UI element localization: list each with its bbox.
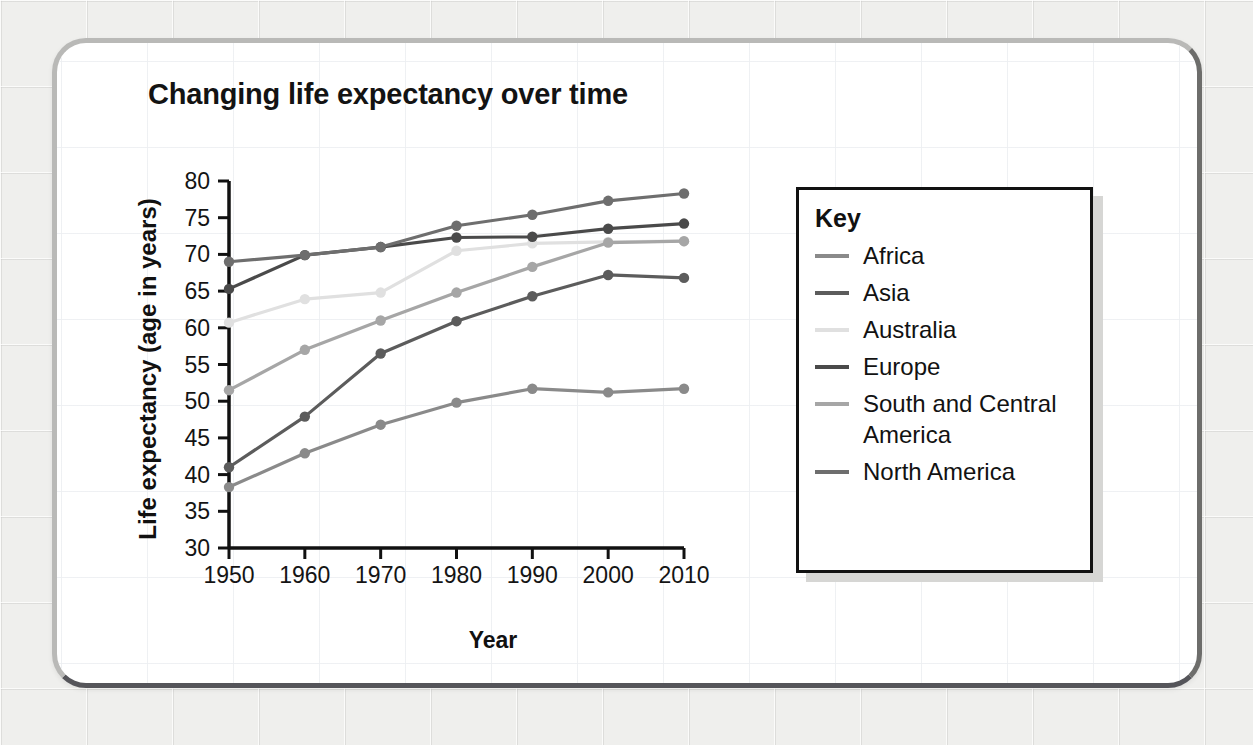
legend-items: AfricaAsiaAustraliaEuropeSouth and Centr… <box>799 239 1090 488</box>
legend-item[interactable]: Europe <box>799 350 1090 383</box>
page-title: Changing life expectancy over time <box>148 78 628 111</box>
legend-item[interactable]: Australia <box>799 313 1090 346</box>
legend-item[interactable]: North America <box>799 455 1090 488</box>
legend-label: North America <box>863 456 1015 487</box>
legend-line-swatch-icon <box>815 254 849 258</box>
legend-item[interactable]: South and Central America <box>799 387 1090 451</box>
legend-line-swatch-icon <box>815 365 849 369</box>
legend-box: Key AfricaAsiaAustraliaEuropeSouth and C… <box>796 187 1093 573</box>
legend-label: Africa <box>863 240 924 271</box>
legend-line-swatch-icon <box>815 328 849 332</box>
legend-label: Australia <box>863 314 956 345</box>
legend-line-swatch-icon <box>815 470 849 474</box>
x-axis-title: Year <box>273 627 713 654</box>
legend-title: Key <box>815 204 1090 233</box>
y-axis-title: Life expectancy (age in years) <box>134 159 162 579</box>
legend-line-swatch-icon <box>815 291 849 295</box>
legend-item[interactable]: Asia <box>799 276 1090 309</box>
legend-label: Europe <box>863 351 940 382</box>
legend-label: Asia <box>863 277 910 308</box>
legend-item[interactable]: Africa <box>799 239 1090 272</box>
legend-label: South and Central America <box>863 388 1068 450</box>
legend-line-swatch-icon <box>815 402 849 406</box>
